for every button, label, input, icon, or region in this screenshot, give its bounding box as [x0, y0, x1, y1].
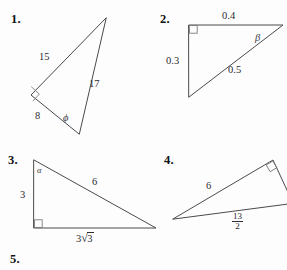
triangle-3 [34, 160, 156, 228]
triangle-1-outline [31, 18, 106, 134]
problem-2-angle-beta-label: β [255, 32, 260, 43]
radical-radicand: 3 [87, 232, 94, 244]
problem-1-number: 1. [11, 12, 21, 27]
problem-1-side-upper-left-label: 15 [39, 51, 50, 62]
triangle-2-right-angle-icon [190, 26, 198, 34]
problem-2-side-top-label: 0.4 [222, 10, 235, 21]
worksheet-page: 1. 15 17 8 ϕ 2. 0.4 0.3 0.5 β 3. α 3 6 3… [0, 0, 287, 270]
triangle-4-outline [173, 160, 287, 219]
triangle-2-outline [189, 25, 283, 97]
problem-3-angle-alpha-label: α [37, 165, 41, 175]
problem-3-number: 3. [8, 153, 18, 168]
figures-canvas [0, 0, 287, 270]
problem-4-side-upper-label: 6 [206, 180, 211, 191]
problem-4-number: 4. [164, 153, 174, 168]
problem-3-side-hypotenuse-label: 6 [92, 176, 97, 187]
problem-1-side-lower-left-label: 8 [35, 110, 40, 121]
problem-4-side-bottom-label: 13 2 [232, 212, 243, 232]
triangle-2 [189, 25, 283, 97]
problem-5-number: 5. [10, 252, 20, 267]
triangle-3-right-angle-icon [35, 220, 43, 228]
problem-1-side-right-label: 17 [89, 78, 100, 89]
problem-3-side-bottom-label: 3√3 [76, 232, 94, 244]
triangle-4 [173, 160, 287, 219]
problem-2-number: 2. [160, 12, 170, 27]
radical-expression: 3√3 [76, 232, 94, 244]
fraction-denominator: 2 [232, 222, 243, 231]
triangle-1 [31, 18, 106, 134]
triangle-3-outline [34, 160, 156, 228]
problem-2-side-hypotenuse-label: 0.5 [228, 64, 241, 75]
problem-1-angle-phi-label: ϕ [63, 112, 68, 123]
problem-3-side-left-label: 3 [20, 189, 25, 200]
fraction-expression: 13 2 [232, 212, 243, 232]
problem-2-side-left-label: 0.3 [166, 55, 179, 66]
